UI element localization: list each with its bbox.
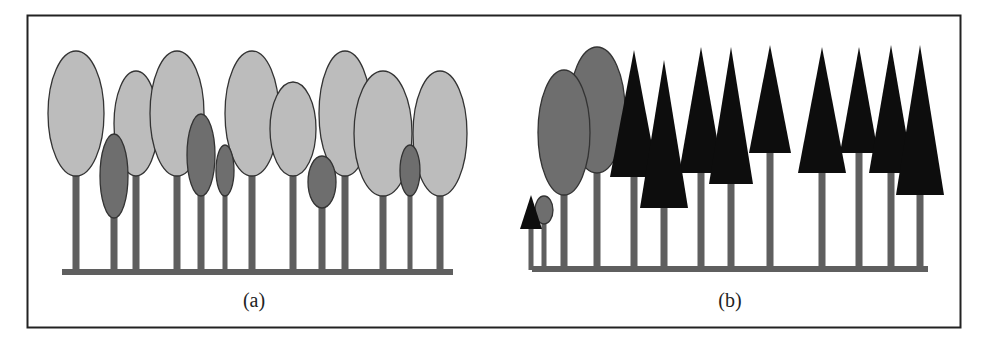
tree-trunk bbox=[249, 174, 256, 273]
tree-trunk bbox=[856, 151, 863, 270]
tree-trunk bbox=[380, 194, 387, 273]
broadleaf-crown-dark bbox=[216, 145, 234, 196]
broadleaf-crown-dark bbox=[308, 156, 336, 208]
panel-b-caption: (b) bbox=[718, 289, 741, 312]
forest-structure-figure: (a) (b) bbox=[0, 0, 984, 343]
tree-trunk bbox=[888, 171, 895, 270]
tree-trunk bbox=[133, 174, 140, 273]
tree-trunk bbox=[594, 171, 601, 270]
ground-line bbox=[532, 266, 928, 272]
panel-a-caption: (a) bbox=[243, 289, 265, 312]
ground-line bbox=[62, 269, 453, 275]
broadleaf-crown-dark bbox=[100, 134, 128, 218]
tree-trunk bbox=[342, 174, 349, 273]
broadleaf-crown-light bbox=[270, 82, 316, 176]
broadleaf-crown-light bbox=[413, 71, 467, 196]
tree-trunk bbox=[111, 216, 118, 273]
tree-trunk bbox=[174, 174, 181, 273]
tree-trunk bbox=[561, 193, 568, 270]
tree-trunk bbox=[319, 206, 326, 273]
tree-trunk bbox=[542, 222, 547, 270]
tree-trunk bbox=[631, 175, 638, 270]
broadleaf-crown-dark bbox=[187, 114, 215, 196]
broadleaf-crown-light bbox=[48, 51, 104, 176]
tree-trunk bbox=[819, 171, 826, 270]
tree-trunk bbox=[529, 227, 534, 270]
tree-trunk bbox=[198, 194, 205, 273]
tree-trunk bbox=[223, 194, 228, 273]
tree-trunk bbox=[437, 194, 444, 273]
tree-trunk bbox=[698, 171, 705, 270]
broadleaf-crown-dark bbox=[538, 70, 590, 195]
tree-trunk bbox=[728, 182, 735, 270]
tree-trunk bbox=[73, 174, 80, 273]
tree-trunk bbox=[767, 151, 774, 270]
tree-trunk bbox=[290, 174, 297, 273]
tree-trunk bbox=[661, 206, 668, 270]
tree-trunk bbox=[408, 194, 413, 273]
tree-trunk bbox=[917, 193, 924, 270]
broadleaf-crown-dark bbox=[400, 145, 420, 196]
